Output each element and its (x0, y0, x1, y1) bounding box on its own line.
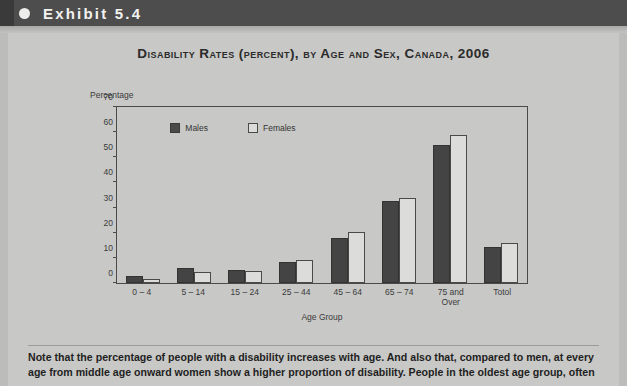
bar-males[interactable] (177, 268, 194, 283)
bar-group (425, 107, 476, 283)
y-axis-tick-mark (113, 131, 117, 132)
bar-groups (117, 107, 527, 283)
bar-group (476, 107, 527, 283)
x-axis-tick-label: 75 andOver (425, 284, 477, 306)
bar-males[interactable] (433, 145, 450, 283)
bar-group (168, 107, 219, 283)
y-axis-tick-mark (113, 207, 117, 208)
x-axis-tick-label: 15 – 24 (219, 284, 271, 306)
bar-males[interactable] (484, 247, 501, 283)
bar-males[interactable] (279, 262, 296, 283)
bar-females[interactable] (143, 279, 160, 284)
x-axis-tick-label: Totol (477, 284, 529, 306)
page-edge-right (619, 26, 627, 386)
bar-males[interactable] (228, 270, 245, 283)
exhibit-label: Exhibit 5.4 (43, 5, 142, 22)
exhibit-header-bar: Exhibit 5.4 (0, 0, 627, 26)
bar-females[interactable] (245, 271, 262, 283)
bar-group (220, 107, 271, 283)
bar-females[interactable] (501, 243, 518, 283)
y-axis-tick-label: 10 (104, 243, 113, 253)
y-axis-tick-label: 30 (104, 193, 113, 203)
y-axis-tick-label: 20 (104, 218, 113, 228)
page-edge-left (0, 26, 8, 386)
bar-females[interactable] (296, 260, 313, 283)
x-axis-tick-label: 65 – 74 (374, 284, 426, 306)
y-axis-tick-mark (113, 282, 117, 283)
y-axis-tick-label: 50 (104, 142, 113, 152)
bar-males[interactable] (331, 238, 348, 283)
bar-males[interactable] (126, 276, 143, 283)
x-axis-tick-label: 5 – 14 (168, 284, 220, 306)
bar-group (271, 107, 322, 283)
bar-chart: Percentage MalesFemales 010203040506070 … (88, 92, 528, 306)
bar-females[interactable] (450, 135, 467, 283)
bullet-dot-icon (19, 8, 30, 19)
y-axis-tick-mark (113, 181, 117, 182)
x-axis-tick-label: 25 – 44 (271, 284, 323, 306)
y-axis-tick-mark (113, 257, 117, 258)
bar-females[interactable] (348, 232, 365, 283)
bar-males[interactable] (382, 201, 399, 283)
y-axis-tick-mark (113, 106, 117, 107)
bar-females[interactable] (194, 272, 211, 283)
exhibit-page: Exhibit 5.4 Disability Rates (percent), … (0, 0, 627, 386)
bar-group (117, 107, 168, 283)
figure-title: Disability Rates (percent), by Age and S… (0, 46, 627, 61)
x-axis-title: Age Group (116, 312, 528, 322)
y-axis-tick-label: 60 (104, 117, 113, 127)
note-divider (28, 345, 599, 346)
y-axis-tick-mark (113, 232, 117, 233)
figure-note: Note that the percentage of people with … (28, 350, 603, 379)
y-axis-tick-label: 0 (108, 268, 113, 278)
x-axis-labels: 0 – 45 – 1415 – 2425 – 4445 – 6465 – 747… (116, 284, 528, 306)
plot-area: MalesFemales 010203040506070 (116, 106, 528, 284)
header-shadow (0, 26, 627, 33)
y-axis-tick-label: 40 (104, 167, 113, 177)
y-axis-tick-label: 70 (104, 92, 113, 102)
bar-females[interactable] (399, 198, 416, 283)
header-accent-block (0, 0, 14, 26)
x-axis-tick-label: 0 – 4 (116, 284, 168, 306)
y-axis-tick-mark (113, 156, 117, 157)
bar-group (373, 107, 424, 283)
bar-group (322, 107, 373, 283)
x-axis-tick-label: 45 – 64 (322, 284, 374, 306)
